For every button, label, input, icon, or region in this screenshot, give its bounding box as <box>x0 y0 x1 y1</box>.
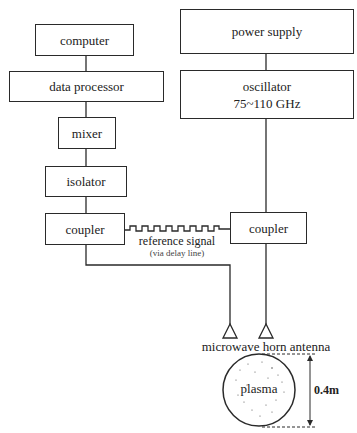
data-processor-label: data processor <box>49 78 124 95</box>
dimension-label: 0.4m <box>314 383 350 398</box>
reference-signal-label: reference signal <box>134 234 220 249</box>
mixer-label: mixer <box>72 125 102 142</box>
left-coupler-label: coupler <box>66 221 105 238</box>
oscillator-box: oscillator 75~110 GHz <box>180 70 354 119</box>
left-coupler-box: coupler <box>45 213 125 245</box>
computer-label: computer <box>60 32 109 49</box>
right-coupler-box: coupler <box>230 212 307 244</box>
antenna-label: microwave horn antenna <box>186 339 346 355</box>
mixer-box: mixer <box>58 117 116 149</box>
computer-box: computer <box>35 24 134 56</box>
right-coupler-label: coupler <box>249 220 288 237</box>
isolator-label: isolator <box>67 173 106 190</box>
power-supply-label: power supply <box>232 23 302 40</box>
plasma-label: plasma <box>229 381 289 397</box>
oscillator-label: oscillator <box>243 78 291 95</box>
horn-antenna-icons <box>223 324 273 338</box>
power-supply-box: power supply <box>180 9 354 54</box>
data-processor-box: data processor <box>9 71 164 102</box>
isolator-box: isolator <box>45 166 127 197</box>
delay-line-label: (via delay line) <box>134 248 220 258</box>
oscillator-frequency: 75~110 GHz <box>234 95 301 112</box>
